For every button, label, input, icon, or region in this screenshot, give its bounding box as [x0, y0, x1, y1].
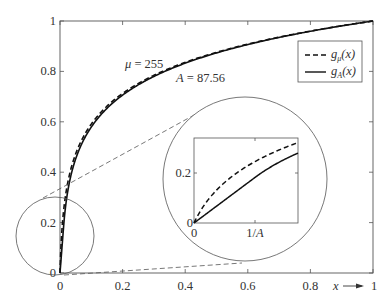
y-tick-label: 0.8 [40, 64, 56, 78]
mu-annotation-value: = 255 [131, 57, 163, 71]
x-tick-label: 0.4 [177, 279, 193, 293]
y-tick-label: 0.2 [40, 216, 56, 230]
x-tick-label: 0.6 [240, 279, 256, 293]
mu-annotation: μ = 255 [124, 57, 163, 71]
a-annotation-value: = 87.56 [184, 71, 225, 85]
inset-x-tick-label: 0 [191, 226, 197, 240]
zoom-source-circle [16, 197, 94, 275]
x-tick-label: 0.8 [303, 279, 319, 293]
inset-y-tick-label: 0.2 [175, 166, 191, 180]
x-tick-labels: 0 0.2 0.4 0.6 0.8 1 [57, 279, 377, 293]
a-annotation: A = 87.56 [175, 71, 225, 85]
y-tick-label: 1 [50, 14, 56, 28]
legend-label-mu: gμ(x) [331, 47, 355, 63]
companding-chart: 0 0.2 0.4 0.6 0.8 1 0 0.2 0.4 0.6 0.8 1 … [0, 0, 392, 306]
y-tick-label: 0.6 [40, 115, 56, 129]
x-tick-label: 0 [57, 279, 63, 293]
x-tick-label: 1 [371, 279, 377, 293]
x-axis-label: x [332, 279, 364, 293]
arrow-head-icon [356, 284, 364, 289]
legend: gμ(x) gA(x) [298, 41, 362, 82]
x-tick-label: 0.2 [115, 279, 131, 293]
x-axis-label-text: x [332, 279, 339, 293]
y-tick-label: 0 [50, 266, 56, 280]
y-tick-labels: 0 0.2 0.4 0.6 0.8 1 [40, 14, 56, 280]
y-tick-label: 0.4 [40, 165, 56, 179]
legend-label-a: gA(x) [331, 64, 356, 80]
inset-x-tick-label: 1/A [246, 226, 264, 240]
